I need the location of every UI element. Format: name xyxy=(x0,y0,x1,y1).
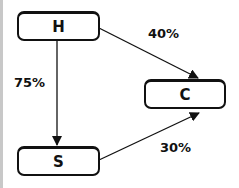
node-s: S xyxy=(17,146,100,176)
edge-label-s-c: 30% xyxy=(160,140,191,155)
node-s-label: S xyxy=(53,153,64,171)
node-c-label: C xyxy=(179,86,190,104)
node-h: H xyxy=(17,11,100,41)
edge-label-h-c: 40% xyxy=(148,26,179,41)
node-h-label: H xyxy=(52,18,65,36)
node-c: C xyxy=(144,79,226,109)
edge-label-h-s: 75% xyxy=(14,75,45,90)
